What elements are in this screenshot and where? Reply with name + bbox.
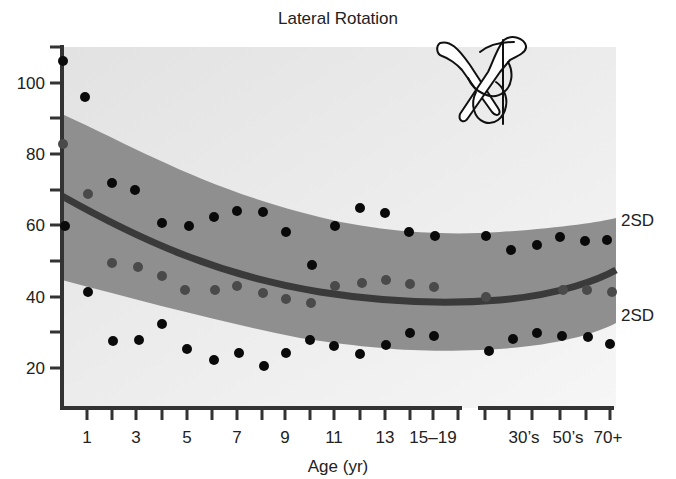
x-tick-label: 30’s [509, 428, 540, 447]
x-tick-label: 7 [232, 428, 241, 447]
x-tick-label: 15–19 [409, 428, 456, 447]
x-axis-title: Age (yr) [308, 457, 368, 476]
y-tick-label: 20 [26, 359, 45, 378]
x-tick-label: 11 [325, 428, 343, 447]
x-tick-label: 3 [131, 428, 140, 447]
x-tick-label: 13 [376, 428, 395, 447]
x-tick-label: 5 [182, 428, 191, 447]
y-tick-label: 100 [17, 74, 45, 93]
upper-2sd-label: 2SD [621, 211, 654, 230]
x-axis: 1 3 5 7 9 11 13 15–19 30’s 50’s 70+ Age … [60, 408, 622, 476]
lateral-rotation-chart: Lateral Rotation 100 80 60 40 20 [0, 0, 676, 479]
y-tick-label: 40 [26, 288, 45, 307]
x-tick-label: 9 [280, 428, 289, 447]
x-tick-label: 1 [82, 428, 91, 447]
y-axis: 100 80 60 40 20 [17, 45, 62, 410]
x-tick-label: 70+ [594, 428, 623, 447]
chart-title: Lateral Rotation [278, 9, 398, 28]
y-tick-label: 60 [26, 216, 45, 235]
lower-2sd-label: 2SD [621, 306, 654, 325]
y-tick-label: 80 [26, 145, 45, 164]
x-tick-label: 50’s [553, 428, 584, 447]
